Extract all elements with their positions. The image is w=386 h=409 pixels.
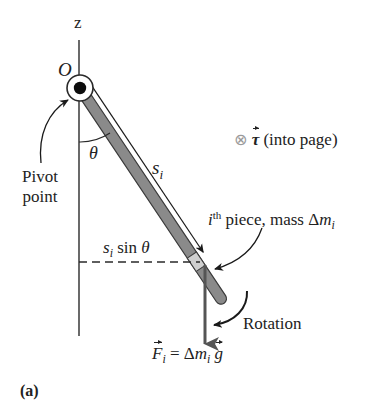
piece-label: ith piece, mass Δmi xyxy=(208,210,335,232)
torque-label: ⊗ τ (into page) xyxy=(234,131,338,148)
into-page-icon: ⊗ xyxy=(234,130,247,149)
piece-callout-arrow xyxy=(215,228,262,269)
torque-text: (into page) xyxy=(259,130,337,149)
lever-angle: θ xyxy=(141,238,149,257)
origin-label: O xyxy=(58,60,72,79)
pivot-label-line1: Pivot xyxy=(22,167,58,187)
piece-text: piece, mass xyxy=(221,210,308,229)
force-mass: m xyxy=(195,344,207,363)
force-equals: = xyxy=(166,344,184,363)
force-vector-symbol: F xyxy=(152,345,162,362)
panel-label: (a) xyxy=(20,383,39,399)
theta-label: θ xyxy=(89,144,98,162)
rotation-label: Rotation xyxy=(243,315,302,332)
distance-label: si xyxy=(152,158,163,181)
piece-delta: Δ xyxy=(308,210,319,229)
lever-text: sin xyxy=(113,238,141,257)
force-label: Fi = Δmi g xyxy=(152,345,223,366)
pivot-callout-arrow xyxy=(40,100,68,163)
piece-mass: m xyxy=(319,210,331,229)
rod xyxy=(75,82,233,306)
lever-symbol: s xyxy=(103,238,110,257)
distance-arrow xyxy=(90,84,203,253)
gravity-vector-symbol: g xyxy=(215,345,224,362)
pivot-label: Pivot point xyxy=(22,167,58,207)
torque-vector-symbol: τ xyxy=(252,131,260,148)
force-mass-subscript: i xyxy=(207,352,210,366)
distance-subscript: i xyxy=(159,167,163,182)
force-delta: Δ xyxy=(184,344,195,363)
z-axis-label: z xyxy=(74,14,82,31)
piece-subscript: i xyxy=(331,218,334,232)
lever-arm-label: si sin θ xyxy=(103,239,150,260)
pivot-label-line2: point xyxy=(22,187,58,207)
pivot-dot-icon xyxy=(74,82,86,94)
